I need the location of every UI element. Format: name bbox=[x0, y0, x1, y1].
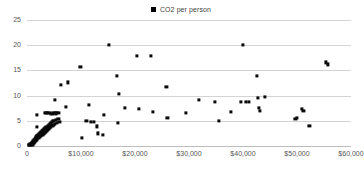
y-tick-label-10: 10 bbox=[0, 92, 21, 99]
chart-legend: CO2 per person bbox=[0, 3, 362, 15]
data-point bbox=[117, 92, 120, 95]
data-point bbox=[36, 125, 39, 128]
data-point bbox=[116, 74, 119, 77]
gridline-y-0 bbox=[27, 146, 351, 147]
x-axis-tick-labels: 0$10,000$20,000$30,000$40,000$50,000$60,… bbox=[27, 150, 351, 162]
data-point bbox=[185, 111, 188, 114]
y-tick-label-15: 15 bbox=[0, 66, 21, 73]
data-point bbox=[255, 74, 258, 77]
y-tick-label-5: 5 bbox=[0, 117, 21, 124]
x-tick-label-30000: $30,000 bbox=[176, 150, 201, 158]
x-tick-label-50000: $50,000 bbox=[284, 150, 309, 158]
legend-marker-icon bbox=[151, 7, 156, 12]
y-axis-tick-labels: 0510152025 bbox=[0, 20, 24, 146]
data-point bbox=[241, 43, 244, 46]
data-point bbox=[59, 83, 62, 86]
data-point bbox=[80, 136, 83, 139]
gridline-y-25 bbox=[27, 20, 351, 21]
data-point bbox=[308, 124, 311, 127]
gridline-y-20 bbox=[27, 45, 351, 46]
data-point bbox=[247, 100, 250, 103]
data-point bbox=[295, 117, 298, 120]
data-point bbox=[97, 132, 100, 135]
data-point bbox=[103, 113, 106, 116]
y-tick-label-25: 25 bbox=[0, 16, 21, 23]
x-tick-label-20000: $20,000 bbox=[122, 150, 147, 158]
data-point bbox=[107, 43, 110, 46]
x-tick-label-60000: $60,000 bbox=[338, 150, 363, 158]
data-point bbox=[302, 109, 305, 112]
data-point bbox=[53, 98, 56, 101]
data-point bbox=[326, 63, 329, 66]
data-point bbox=[257, 96, 260, 99]
data-point bbox=[197, 99, 200, 102]
data-point bbox=[64, 105, 67, 108]
data-point bbox=[66, 81, 69, 84]
data-point bbox=[166, 116, 169, 119]
x-tick-label-10000: $10,000 bbox=[68, 150, 93, 158]
gridline-y-5 bbox=[27, 121, 351, 122]
data-point bbox=[92, 120, 95, 123]
data-point bbox=[149, 55, 152, 58]
x-tick-label-40000: $40,000 bbox=[230, 150, 255, 158]
data-point bbox=[258, 110, 261, 113]
data-point bbox=[88, 103, 91, 106]
data-point bbox=[58, 120, 61, 123]
data-point bbox=[57, 112, 60, 115]
data-point bbox=[239, 101, 242, 104]
data-point bbox=[137, 108, 140, 111]
data-point bbox=[117, 121, 120, 124]
data-point bbox=[101, 133, 104, 136]
data-point bbox=[230, 110, 233, 113]
data-point bbox=[263, 96, 266, 99]
data-point bbox=[213, 100, 216, 103]
data-point bbox=[218, 120, 221, 123]
data-point bbox=[135, 54, 138, 57]
data-point bbox=[151, 111, 154, 114]
y-tick-label-20: 20 bbox=[0, 41, 21, 48]
data-point bbox=[35, 113, 38, 116]
gridline-y-15 bbox=[27, 70, 351, 71]
data-point bbox=[85, 120, 88, 123]
x-tick-label-0: 0 bbox=[25, 150, 29, 158]
data-point bbox=[165, 85, 168, 88]
data-point bbox=[124, 107, 127, 110]
data-point bbox=[79, 65, 82, 68]
plot-area bbox=[27, 20, 351, 146]
legend-label: CO2 per person bbox=[160, 6, 211, 13]
data-point bbox=[95, 125, 98, 128]
gridline-y-10 bbox=[27, 96, 351, 97]
y-tick-label-0: 0 bbox=[0, 142, 21, 149]
